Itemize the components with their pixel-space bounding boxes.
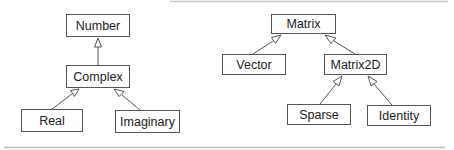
class-box-complex: Complex (66, 65, 130, 88)
edge-matrix2d-matrix (325, 35, 355, 54)
class-label: Imaginary (120, 115, 175, 129)
class-box-vector: Vector (222, 54, 286, 75)
edge-sparse-matrix2d (320, 76, 342, 104)
class-label: Vector (236, 58, 271, 72)
class-label: Identity (379, 109, 419, 123)
class-label: Sparse (299, 108, 339, 122)
class-box-matrix2d: Matrix2D (324, 54, 387, 75)
class-label: Matrix (286, 17, 320, 31)
edge-complex-number (95, 38, 102, 65)
edge-vector-matrix (253, 35, 281, 54)
class-label: Real (39, 114, 65, 128)
class-box-sparse: Sparse (287, 104, 351, 125)
class-label: Matrix2D (330, 58, 380, 72)
class-box-matrix: Matrix (271, 14, 336, 34)
class-box-identity: Identity (367, 105, 431, 126)
edge-imaginary-complex (114, 89, 140, 110)
class-box-imaginary: Imaginary (115, 110, 180, 133)
edge-real-complex (52, 89, 79, 109)
class-box-real: Real (21, 109, 83, 132)
class-box-number: Number (66, 14, 130, 37)
class-label: Complex (73, 70, 122, 84)
edge-identity-matrix2d (368, 76, 392, 105)
class-label: Number (76, 19, 120, 33)
